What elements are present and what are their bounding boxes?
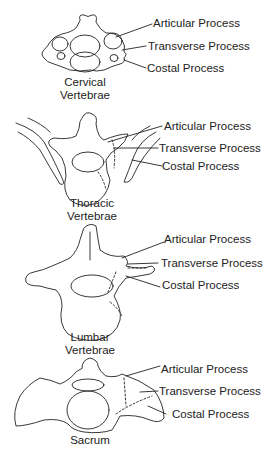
sacrum-transverse-process-label: Transverse Process	[159, 385, 261, 397]
sacrum-costal-process-label: Costal Process	[172, 408, 249, 420]
caption-line: Lumbar	[58, 331, 122, 344]
lumbar-articular-process-label: Articular Process	[164, 233, 251, 245]
cervical-transverse-process-label: Transverse Process	[148, 40, 250, 52]
thoracic-costal-process-label: Costal Process	[162, 160, 239, 172]
sacrum-drawing	[15, 358, 166, 433]
sacrum-articular-process-label: Articular Process	[161, 363, 248, 375]
caption-line: Vertebrae	[60, 210, 124, 223]
cervical-costal-process-label: Costal Process	[147, 62, 224, 74]
sacrum-caption: Sacrum	[58, 434, 122, 447]
lumbar-costal-process-label: Costal Process	[162, 279, 239, 291]
caption-line: Thoracic	[60, 197, 124, 210]
caption-line: Vertebrae	[58, 344, 122, 357]
lumbar-vertebrae-caption: Lumbar Vertebrae	[58, 331, 122, 357]
cervical-articular-process-label: Articular Process	[153, 17, 240, 29]
cervical-vertebrae-caption: Cervical Vertebrae	[55, 76, 115, 102]
lumbar-transverse-process-label: Transverse Process	[161, 257, 263, 269]
caption-line: Vertebrae	[55, 89, 115, 102]
thoracic-vertebrae-caption: Thoracic Vertebrae	[60, 197, 124, 223]
thoracic-transverse-process-label: Transverse Process	[159, 142, 261, 154]
lumbar-vertebra-drawing	[26, 224, 164, 340]
thoracic-vertebra-drawing	[16, 113, 162, 206]
vertebrae-illustration	[0, 0, 274, 451]
caption-line: Sacrum	[58, 434, 122, 447]
thoracic-articular-process-label: Articular Process	[164, 120, 251, 132]
caption-line: Cervical	[55, 76, 115, 89]
cervical-vertebra-drawing	[42, 15, 152, 72]
